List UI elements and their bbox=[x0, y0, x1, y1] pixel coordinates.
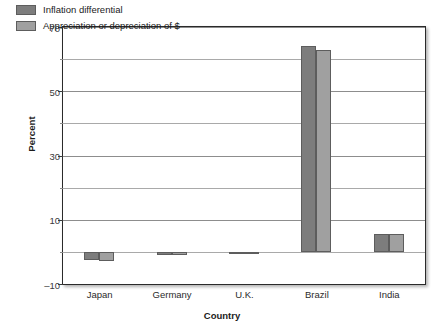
y-tick-label: 50 bbox=[20, 86, 60, 97]
plot-area bbox=[62, 26, 426, 285]
y-tick-mark-minor bbox=[60, 123, 63, 124]
x-tick-label: Japan bbox=[87, 289, 113, 300]
x-tick-label: India bbox=[379, 289, 400, 300]
bar-germany-series0 bbox=[157, 252, 172, 255]
x-axis-title: Country bbox=[0, 310, 444, 321]
bar-japan-series1 bbox=[99, 252, 114, 261]
y-tick-label: –10 bbox=[20, 279, 60, 290]
y-tick-label: 30 bbox=[20, 151, 60, 162]
y-tick-label: 10 bbox=[20, 215, 60, 226]
legend-label: Inflation differential bbox=[43, 4, 123, 15]
chart-figure: Percent Country Inflation differential A… bbox=[0, 0, 444, 333]
bar-brazil-series1 bbox=[316, 50, 331, 252]
y-tick-mark-minor bbox=[60, 188, 63, 189]
bar-india-series0 bbox=[374, 234, 389, 252]
y-tick-mark-minor bbox=[60, 252, 63, 253]
x-tick-label: Germany bbox=[153, 289, 192, 300]
bar-uk-series1 bbox=[244, 252, 259, 255]
x-tick-label: U.K. bbox=[235, 289, 253, 300]
bar-germany-series1 bbox=[172, 252, 187, 256]
legend-item-inflation-differential: Inflation differential bbox=[16, 3, 180, 16]
legend-swatch-icon bbox=[16, 5, 36, 15]
bar-uk-series0 bbox=[229, 252, 244, 255]
bar-india-series1 bbox=[389, 234, 404, 252]
bar-japan-series0 bbox=[84, 252, 99, 260]
y-tick-mark-minor bbox=[60, 59, 63, 60]
y-tick-label: 70 bbox=[20, 22, 60, 33]
x-tick-label: Brazil bbox=[305, 289, 329, 300]
bar-brazil-series0 bbox=[301, 46, 316, 252]
legend-label: Appreciation or depreciation of $ bbox=[43, 20, 180, 31]
bars-layer bbox=[63, 27, 425, 284]
